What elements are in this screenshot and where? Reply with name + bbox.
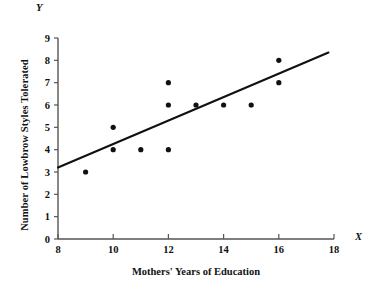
y-tick-label: 5 (45, 122, 50, 133)
data-points (83, 58, 281, 175)
data-point (276, 80, 281, 85)
y-tick-label: 8 (45, 55, 50, 66)
data-point (83, 169, 88, 174)
y-tick-label: 9 (45, 33, 50, 44)
y-tick-label: 3 (45, 167, 50, 178)
regression-line-segment (58, 53, 328, 168)
data-point (138, 147, 143, 152)
data-point (111, 125, 116, 130)
x-tick-label: 18 (329, 244, 340, 255)
data-point (193, 102, 198, 107)
y-tick-label: 4 (45, 144, 51, 155)
scatter-plot-canvas: 012345678981012141618 (0, 0, 374, 290)
data-point (249, 102, 254, 107)
data-point (111, 147, 116, 152)
y-tick-label: 0 (45, 234, 50, 245)
x-tick-label: 10 (108, 244, 119, 255)
data-point (166, 102, 171, 107)
x-tick-label: 12 (163, 244, 174, 255)
y-tick-label: 7 (45, 77, 50, 88)
regression-line (58, 53, 328, 168)
y-tick-label: 2 (45, 189, 50, 200)
y-tick-label: 1 (45, 211, 50, 222)
chart-figure: Y X Number of Lowbrow Styles Tolerated M… (0, 0, 374, 290)
x-tick-label: 8 (55, 244, 60, 255)
y-tick-label: 6 (45, 100, 50, 111)
data-point (166, 147, 171, 152)
x-tick-label: 16 (274, 244, 285, 255)
data-point (166, 80, 171, 85)
data-point (221, 102, 226, 107)
data-point (276, 58, 281, 63)
x-tick-label: 14 (218, 244, 229, 255)
